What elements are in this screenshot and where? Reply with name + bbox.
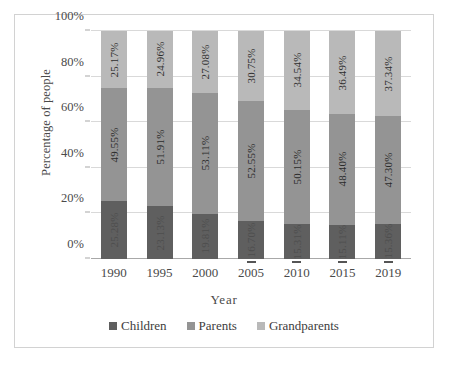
bar-value-label: 27.08% [199,44,211,79]
bar-segment-parents[interactable]: 50.15% [284,110,310,224]
x-tick-label: 1990 [91,265,137,281]
y-tick-label: 40% [61,145,84,160]
bar-value-label: 34.54% [291,53,303,88]
x-axis-title: Year [15,292,433,308]
bar-segment-parents[interactable]: 48.40% [329,114,355,224]
x-tick-cell [365,259,411,264]
bar-column[interactable]: 30.75%52.55%16.70% [228,31,274,259]
bar-segment-grandparents[interactable]: 37.34% [375,31,401,116]
bar-value-label: 53.11% [199,136,211,171]
legend-swatch-icon [257,322,265,330]
x-tick-label: 2000 [182,265,228,281]
y-tick-label: 100% [55,9,84,24]
x-tick-cell [274,259,320,264]
y-tick-label: 80% [61,54,84,69]
x-tick-label: 1995 [137,265,183,281]
bar-value-label: 51.91% [154,130,166,165]
x-tick-mark [338,261,347,263]
bar-value-label: 37.34% [382,56,394,91]
bar-segment-grandparents[interactable]: 24.96% [147,31,173,88]
x-tick-cell [182,259,228,264]
y-tick-mark [85,75,90,76]
bar-segment-grandparents[interactable]: 36.49% [329,31,355,114]
bar-column[interactable]: 25.17%49.55%25.28% [91,31,137,259]
bar-stack: 36.49%48.40%15.11% [329,31,355,259]
y-axis-title: Percentage of people [39,33,54,213]
x-tick-mark [384,261,393,263]
bar-value-label: 25.28% [108,213,120,248]
bar-value-label: 25.17% [108,42,120,77]
legend-item-children[interactable]: Children [109,318,167,334]
bar-value-label: 24.96% [154,42,166,77]
bar-column[interactable]: 37.34%47.30%15.36% [365,31,411,259]
bar-stack: 24.96%51.91%23.13% [147,31,173,259]
legend-item-parents[interactable]: Parents [187,318,237,334]
y-tick-mark [85,258,90,259]
legend-swatch-icon [187,322,195,330]
bar-value-label: 47.30% [382,153,394,188]
bar-segment-children[interactable]: 19.81% [192,214,218,259]
x-tick-label: 2019 [365,265,411,281]
bar-column[interactable]: 24.96%51.91%23.13% [137,31,183,259]
x-tick-cell [91,259,137,264]
x-tick-mark [292,261,301,263]
y-tick-mark [85,121,90,122]
bar-value-label: 15.31% [291,224,303,259]
bar-stack: 34.54%50.15%15.31% [284,31,310,259]
bar-series-group: 25.17%49.55%25.28%24.96%51.91%23.13%27.0… [91,31,411,259]
bar-segment-children[interactable]: 25.28% [101,201,127,259]
x-tick-mark [247,261,256,263]
plot-area: 0%20%40%60%80%100% 25.17%49.55%25.28%24.… [91,31,411,259]
bar-segment-grandparents[interactable]: 30.75% [238,31,264,101]
bar-stack: 30.75%52.55%16.70% [238,31,264,259]
y-tick-label: 0% [67,237,84,252]
bar-segment-parents[interactable]: 52.55% [238,101,264,221]
bar-segment-children[interactable]: 15.11% [329,225,355,259]
bar-value-label: 15.36% [382,224,394,259]
legend-item-grandparents[interactable]: Grandparents [257,318,339,334]
bar-segment-parents[interactable]: 51.91% [147,88,173,206]
bar-value-label: 19.81% [199,219,211,254]
bar-segment-grandparents[interactable]: 34.54% [284,31,310,110]
bar-value-label: 52.55% [245,143,257,178]
bar-segment-parents[interactable]: 53.11% [192,93,218,214]
bar-segment-children[interactable]: 16.70% [238,221,264,259]
bar-value-label: 49.55% [108,127,120,162]
x-axis-tick-marks [91,259,411,264]
x-tick-label: 2005 [228,265,274,281]
bar-segment-children[interactable]: 23.13% [147,206,173,259]
y-tick-mark [85,212,90,213]
bar-value-label: 36.49% [336,55,348,90]
bar-segment-children[interactable]: 15.31% [284,224,310,259]
bar-stack: 27.08%53.11%19.81% [192,31,218,259]
x-tick-label: 2015 [320,265,366,281]
bar-stack: 37.34%47.30%15.36% [375,31,401,259]
bar-value-label: 30.75% [245,49,257,84]
legend-swatch-icon [109,322,117,330]
bar-segment-parents[interactable]: 47.30% [375,116,401,224]
x-tick-cell [320,259,366,264]
x-axis-tick-labels: 1990199520002005201020152019 [91,265,411,281]
y-tick-mark [85,166,90,167]
x-tick-label: 2010 [274,265,320,281]
chart-legend: ChildrenParentsGrandparents [15,318,433,334]
y-tick-label: 60% [61,100,84,115]
legend-label: Parents [199,318,237,334]
bar-column[interactable]: 27.08%53.11%19.81% [182,31,228,259]
bar-segment-grandparents[interactable]: 27.08% [192,31,218,93]
bar-segment-children[interactable]: 15.36% [375,224,401,259]
bar-column[interactable]: 36.49%48.40%15.11% [320,31,366,259]
legend-label: Grandparents [269,318,339,334]
bar-segment-grandparents[interactable]: 25.17% [101,31,127,88]
y-tick-label: 20% [61,191,84,206]
legend-label: Children [121,318,167,334]
bar-value-label: 16.70% [245,222,257,257]
bar-value-label: 23.13% [154,215,166,250]
bar-segment-parents[interactable]: 49.55% [101,88,127,201]
bar-value-label: 15.11% [336,225,348,259]
bar-column[interactable]: 34.54%50.15%15.31% [274,31,320,259]
bar-value-label: 50.15% [291,149,303,184]
y-tick-mark [85,30,90,31]
bar-stack: 25.17%49.55%25.28% [101,31,127,259]
x-tick-cell [137,259,183,264]
